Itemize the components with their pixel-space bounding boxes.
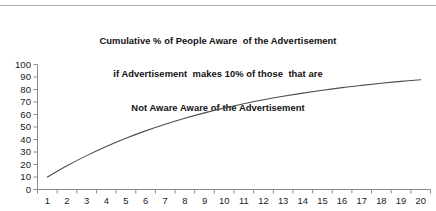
y-axis-tick-label: 60 [1, 110, 31, 120]
y-axis-tick-label: 100 [1, 60, 31, 70]
x-axis-tick-label: 20 [409, 196, 433, 205]
chart-canvas [0, 0, 436, 211]
y-axis-tick-label: 40 [1, 135, 31, 145]
y-axis-tick-label: 30 [1, 147, 31, 157]
y-axis-tick-labels: 1009080706050403020100 [0, 0, 31, 211]
data-series-line [47, 80, 420, 177]
y-axis-tick-label: 50 [1, 122, 31, 132]
y-axis-tick-label: 10 [1, 172, 31, 182]
y-axis-tick-label: 0 [1, 185, 31, 195]
y-axis-tick-label: 20 [1, 160, 31, 170]
y-axis-tick-label: 80 [1, 85, 31, 95]
chart-plot-area [0, 0, 436, 211]
x-axis-tick-labels: 1234567891011121314151617181920 [0, 196, 436, 210]
y-axis-tick-label: 90 [1, 72, 31, 82]
y-axis-tick-label: 70 [1, 97, 31, 107]
